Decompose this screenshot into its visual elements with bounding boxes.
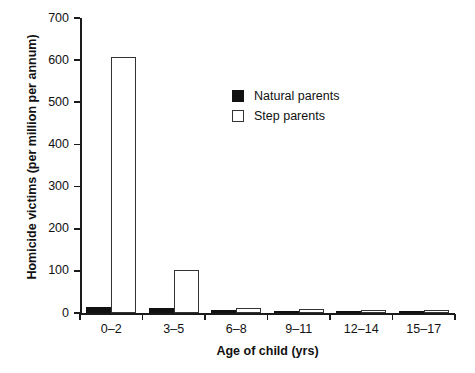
bar-step-parents (424, 310, 449, 313)
bar-chart: Homicide victims (per million per annum)… (0, 0, 475, 373)
plot-area (80, 18, 455, 313)
bar-natural-parents (274, 311, 299, 313)
legend-swatch-natural-parents (232, 90, 244, 102)
x-axis-tick (142, 314, 144, 320)
bar-natural-parents (86, 307, 111, 313)
bar-natural-parents (399, 311, 424, 313)
y-axis-tick-label: 400 (0, 138, 69, 151)
y-axis-tick-label: 700 (0, 12, 69, 25)
x-axis-tick (267, 314, 269, 320)
bar-natural-parents (336, 311, 361, 313)
y-axis-tick-label: 300 (0, 180, 69, 193)
bar-step-parents (299, 309, 324, 313)
x-axis-tick (392, 314, 394, 320)
legend-swatch-step-parents (232, 110, 244, 122)
bar-natural-parents (211, 310, 236, 313)
legend: Natural parents Step parents (232, 86, 339, 126)
y-axis-tick-label: 500 (0, 96, 69, 109)
legend-label-step-parents: Step parents (254, 110, 325, 123)
bar-natural-parents (149, 308, 174, 313)
x-axis-tick-label: 15–17 (384, 323, 464, 336)
y-axis-tick-label: 200 (0, 222, 69, 235)
x-axis-title: Age of child (yrs) (80, 344, 455, 358)
x-axis-tick (329, 314, 331, 320)
x-axis-tick (454, 314, 456, 320)
y-axis-tick-label: 100 (0, 264, 69, 277)
x-axis-tick (204, 314, 206, 320)
bar-step-parents (361, 310, 386, 313)
bar-step-parents (236, 308, 261, 313)
y-axis-tick-label: 0 (0, 307, 69, 320)
legend-item-step-parents: Step parents (232, 106, 339, 126)
legend-label-natural-parents: Natural parents (254, 90, 339, 103)
legend-item-natural-parents: Natural parents (232, 86, 339, 106)
bar-step-parents (111, 57, 136, 313)
x-axis-tick (79, 314, 81, 320)
bar-step-parents (174, 270, 199, 313)
cropped-title-artifact (60, 0, 360, 5)
y-axis-tick-label: 600 (0, 54, 69, 67)
